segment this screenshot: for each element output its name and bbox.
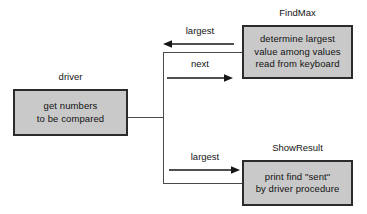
arrow-largest-return (163, 38, 235, 50)
box-showresult-line-2: by driver procedure (256, 183, 340, 196)
arrow-label-largest-return: largest (155, 25, 245, 36)
box-driver-line-2: to be compared (37, 113, 104, 126)
connector-spine-to-findmax (163, 52, 243, 53)
caption-findmax: FindMax (242, 7, 353, 18)
arrow-label-next: next (165, 58, 235, 69)
process-box-findmax: determine largest value among values rea… (242, 25, 353, 79)
arrow-largest-send (169, 164, 240, 176)
caption-driver: driver (13, 71, 128, 82)
arrow-next (167, 72, 233, 84)
box-showresult-line-1: print find "sent" (265, 171, 330, 184)
box-findmax-line-3: read from keyboard (255, 58, 339, 71)
connector-spine-to-showresult (163, 183, 243, 184)
box-driver-line-1: get numbers (44, 100, 98, 113)
connector-driver-to-spine (128, 117, 164, 118)
caption-showresult: ShowResult (242, 142, 353, 153)
connector-vertical-spine (163, 52, 164, 184)
procedure-call-diagram: largest next largest driver FindMax Show… (0, 0, 367, 214)
arrow-label-largest-send: largest (163, 151, 247, 162)
process-box-driver: get numbers to be compared (13, 89, 128, 136)
process-box-showresult: print find "sent" by driver procedure (242, 160, 353, 206)
box-findmax-line-2: value among values (254, 46, 340, 59)
box-findmax-line-1: determine largest (260, 33, 335, 46)
